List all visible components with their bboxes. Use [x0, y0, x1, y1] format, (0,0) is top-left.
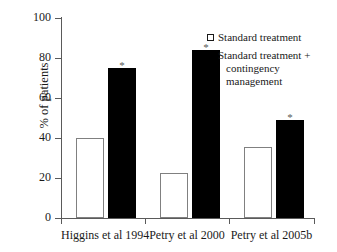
significance-star-higgins: *: [117, 60, 127, 70]
x-tick-end: [314, 218, 315, 224]
legend-label-standard: Standard treatment: [218, 31, 301, 44]
x-axis-line: [61, 218, 315, 219]
y-tick-label-80: 80: [39, 50, 51, 64]
legend-swatch-open-icon: [207, 34, 214, 41]
y-tick-100: 100: [55, 18, 61, 19]
x-label-higgins: Higgins et al 1994: [61, 228, 145, 243]
legend-item-contingency: Standard treatment + contingency managem…: [207, 49, 337, 88]
x-label-petry2000: Petry et al 2000: [145, 228, 229, 243]
y-tick-80: 80: [55, 58, 61, 59]
y-tick-40: 40: [55, 138, 61, 139]
chart-figure: % of patients 0 20 40 60 80 100 * * * Hi…: [0, 0, 337, 252]
legend-item-standard: Standard treatment: [207, 31, 337, 44]
legend-label-contingency-line2: contingency management: [218, 62, 337, 88]
y-tick-20: 20: [55, 178, 61, 179]
significance-star-petry2005b: *: [285, 112, 295, 122]
x-label-petry2005b: Petry et al 2005b: [229, 228, 314, 243]
x-tick-start: [61, 218, 62, 224]
legend-label-contingency-line1: Standard treatment +: [218, 49, 310, 61]
x-tick-div-2: [229, 218, 230, 224]
legend-label-contingency: Standard treatment + contingency managem…: [218, 49, 337, 88]
legend-swatch-filled-icon: [207, 52, 214, 59]
bar-petry2005b-standard: [244, 147, 272, 218]
x-tick-div-1: [145, 218, 146, 224]
bar-higgins-standard: [76, 138, 104, 218]
y-tick-label-40: 40: [39, 130, 51, 144]
bar-petry2005b-contingency: [276, 120, 304, 218]
y-tick-60: 60: [55, 98, 61, 99]
y-tick-label-100: 100: [33, 10, 51, 24]
y-tick-label-0: 0: [45, 210, 51, 224]
y-tick-label-20: 20: [39, 170, 51, 184]
y-tick-label-60: 60: [39, 90, 51, 104]
legend: Standard treatment Standard treatment + …: [207, 31, 337, 93]
bar-petry2000-standard: [160, 173, 188, 218]
bar-higgins-contingency: [108, 68, 136, 218]
